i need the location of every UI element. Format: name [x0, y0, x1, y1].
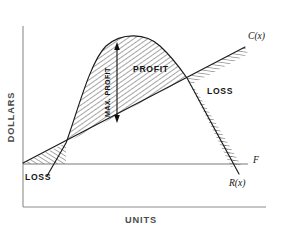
- fixed-cost-label: F: [252, 154, 259, 165]
- cost-curve-label: C(x): [248, 30, 265, 42]
- revenue-curve-label: R(x): [228, 177, 246, 189]
- chart-canvas: C(x) R(x) F PROFIT LOSS LOSS MAX. PROFIT…: [0, 0, 282, 229]
- loss-left-label: LOSS: [25, 172, 51, 182]
- profit-label: PROFIT: [133, 64, 169, 74]
- max-profit-label: MAX. PROFIT: [104, 67, 112, 117]
- loss-right-region: [187, 47, 248, 167]
- loss-right-label: LOSS: [207, 86, 233, 96]
- break-even-chart: C(x) R(x) F PROFIT LOSS LOSS MAX. PROFIT…: [0, 0, 282, 229]
- y-axis-label: DOLLARS: [6, 92, 16, 143]
- x-axis-label: UNITS: [125, 215, 157, 225]
